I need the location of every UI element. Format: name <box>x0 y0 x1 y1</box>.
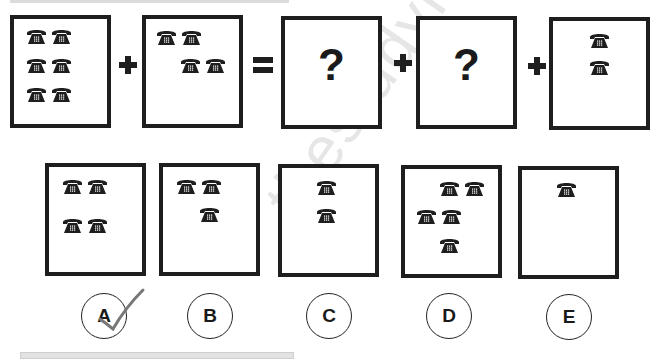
option-e-button[interactable]: E <box>546 294 592 340</box>
option-d-button[interactable]: D <box>426 293 472 339</box>
top-divider-bar <box>10 0 289 3</box>
option-c-button[interactable]: C <box>306 293 352 339</box>
telephone-icon <box>156 29 177 46</box>
telephone-icon <box>51 86 72 103</box>
telephone-icon <box>87 217 108 234</box>
equation-panel-4: ? <box>416 16 517 129</box>
bottom-divider-bar <box>20 352 294 359</box>
telephone-icon <box>181 29 202 46</box>
telephone-icon <box>441 208 462 225</box>
checkmark-icon <box>95 286 150 334</box>
equation-panel-3: ? <box>281 16 382 129</box>
plus-sign <box>119 56 137 74</box>
option-c-panel[interactable] <box>278 164 379 277</box>
telephone-icon <box>176 178 197 195</box>
telephone-icon <box>316 207 337 224</box>
telephone-icon <box>26 28 47 45</box>
equation-panel-1 <box>10 15 111 128</box>
question-mark: ? <box>285 40 378 90</box>
option-d-panel[interactable] <box>401 165 502 278</box>
telephone-icon <box>62 178 83 195</box>
telephone-icon <box>87 178 108 195</box>
telephone-icon <box>26 57 47 74</box>
telephone-icon <box>416 208 437 225</box>
option-b-panel[interactable] <box>159 163 260 276</box>
telephone-icon <box>26 86 47 103</box>
plus-sign <box>394 54 412 72</box>
question-mark: ? <box>420 40 513 90</box>
option-a-panel[interactable] <box>45 163 146 276</box>
equation-panel-5 <box>549 17 650 130</box>
option-e-panel[interactable] <box>518 166 619 279</box>
telephone-icon <box>589 59 610 76</box>
telephone-icon <box>316 179 337 196</box>
telephone-icon <box>439 237 460 254</box>
plus-sign <box>528 57 546 75</box>
telephone-icon <box>464 180 485 197</box>
telephone-icon <box>589 32 610 49</box>
equation-panel-2 <box>142 15 243 128</box>
telephone-icon <box>556 181 577 198</box>
telephone-icon <box>51 57 72 74</box>
telephone-icon <box>205 57 226 74</box>
telephone-icon <box>439 180 460 197</box>
option-b-button[interactable]: B <box>187 293 233 339</box>
telephone-icon <box>201 178 222 195</box>
telephone-icon <box>180 57 201 74</box>
telephone-icon <box>62 217 83 234</box>
telephone-icon <box>51 28 72 45</box>
telephone-icon <box>199 206 220 223</box>
equals-sign <box>253 57 273 73</box>
